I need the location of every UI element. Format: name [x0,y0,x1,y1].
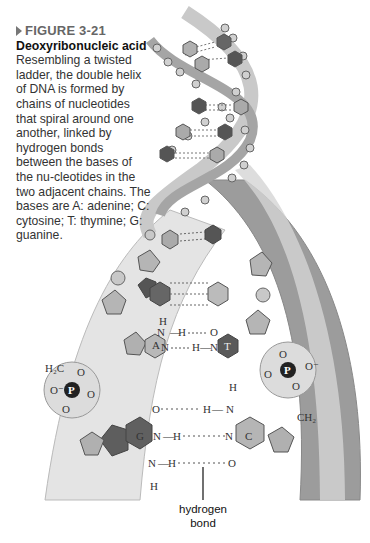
svg-text:O: O [264,368,272,380]
svg-text:O: O [62,403,70,415]
svg-text:H: H [229,381,237,393]
figure-caption: FIGURE 3-21 Deoxyribonucleic acid Resemb… [16,24,136,243]
svg-text:hydrogen: hydrogen [179,503,227,515]
svg-text:N: N [157,326,165,338]
svg-text:N: N [210,341,218,353]
svg-text:O: O [292,380,300,392]
svg-text:O⁻: O⁻ [50,384,64,396]
svg-text:P: P [68,384,75,396]
svg-text:H: H [150,480,158,492]
figure-body-text: Resembling a twisted ladder, the double … [16,53,151,243]
svg-text:H: H [173,430,181,442]
svg-text:O: O [210,326,218,338]
svg-text:O: O [279,348,287,360]
svg-text:O⁻: O⁻ [305,360,319,372]
svg-text:H: H [168,457,176,469]
base-label-guanine: G [136,430,144,442]
figure-number: FIGURE 3-21 [25,24,106,39]
svg-text:O: O [228,457,236,469]
svg-text:O: O [152,403,160,415]
svg-text:O: O [77,366,85,378]
phosphate-group-right: P O O O⁻ O CH₂ [260,342,319,423]
svg-text:H₂C: H₂C [45,362,64,374]
base-label-adenine: A [152,339,160,351]
phosphate-group-left: P H₂C O O⁻ O O [44,362,100,418]
hydrogen-bond-annotation: hydrogen bond [179,467,227,529]
triangle-marker-icon [16,26,22,36]
base-label-thymine: T [224,340,231,352]
svg-text:P: P [284,364,291,376]
base-label-cytosine: C [245,430,252,442]
figure-label: FIGURE 3-21 [16,24,136,39]
svg-text:CH₂: CH₂ [297,411,316,423]
svg-text:H: H [178,326,186,338]
svg-text:N: N [153,430,161,442]
svg-text:—: — [211,403,224,415]
svg-text:H: H [192,341,200,353]
svg-text:H: H [203,403,211,415]
svg-text:N: N [161,341,169,353]
svg-text:bond: bond [190,517,216,529]
svg-text:N: N [226,403,234,415]
svg-text:O: O [87,388,95,400]
svg-text:N: N [225,430,233,442]
svg-text:N: N [148,457,156,469]
figure-title: Deoxyribonucleic acid [16,39,136,54]
